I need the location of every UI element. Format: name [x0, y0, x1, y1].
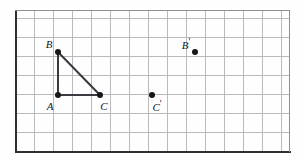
gridline-horizontal [15, 132, 289, 133]
figure-canvas: ABCC'B' [0, 0, 302, 158]
gridline-vertical [72, 10, 73, 151]
gridline-vertical [167, 10, 168, 151]
gridline-vertical [186, 10, 187, 151]
segment-AC [58, 94, 100, 96]
label-A: A [47, 101, 54, 112]
point-A [55, 92, 61, 98]
gridline-vertical [262, 10, 263, 151]
label-Cp: C' [152, 99, 161, 114]
label-B: B [46, 39, 53, 50]
gridline-horizontal [15, 37, 289, 38]
gridline-vertical [34, 10, 35, 151]
point-Bp [192, 49, 198, 55]
label-C: C [100, 101, 107, 112]
gridline-horizontal [15, 18, 289, 19]
gridline-vertical [148, 10, 149, 151]
gridline-vertical [129, 10, 130, 151]
axis-bottom-border [15, 151, 291, 153]
gridline-vertical [91, 10, 92, 151]
point-Cp [149, 92, 155, 98]
gridline-vertical [205, 10, 206, 151]
point-C [97, 92, 103, 98]
label-Bp: B' [182, 37, 191, 52]
axis-left-border [15, 10, 17, 153]
gridline-vertical [281, 10, 282, 151]
gridline-vertical [110, 10, 111, 151]
gridline-vertical [224, 10, 225, 151]
gridline-vertical [243, 10, 244, 151]
frame-right-border [289, 10, 290, 152]
prime-mark: ' [188, 36, 190, 47]
prime-mark: ' [160, 98, 162, 109]
frame-top-border [15, 10, 290, 11]
gridline-vertical [53, 10, 54, 151]
segment-AB [57, 52, 59, 95]
point-B [55, 49, 61, 55]
